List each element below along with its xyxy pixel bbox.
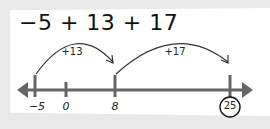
tick-label-0: 0 (63, 100, 70, 113)
tick-label-25-result: 25 (224, 100, 237, 111)
jump-label-plus-13: +13 (61, 46, 82, 57)
tick-label-minus-5: −5 (29, 100, 45, 113)
right-arrow-icon (242, 82, 253, 98)
tick-8 (114, 75, 117, 97)
tick-0 (65, 82, 68, 97)
tick-label-8: 8 (112, 100, 119, 113)
tick-minus-5 (34, 75, 37, 97)
jump-label-plus-17: +17 (164, 46, 185, 57)
left-arrow-icon (17, 82, 28, 98)
tick-25 (229, 75, 232, 97)
